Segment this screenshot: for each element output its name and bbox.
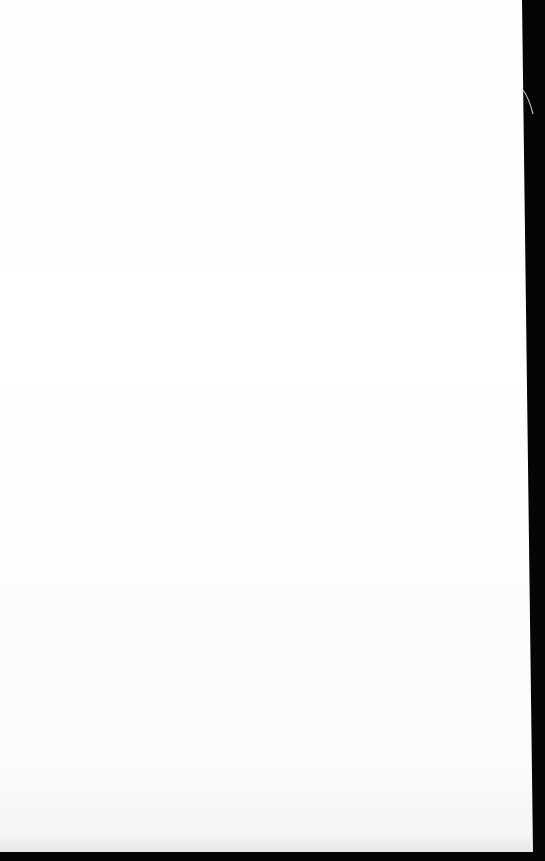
blank-paper-sheet	[0, 0, 545, 852]
photo-scene	[0, 0, 545, 861]
paper-fiber-mark	[521, 88, 537, 118]
paper-bottom-shadow	[0, 835, 545, 852]
